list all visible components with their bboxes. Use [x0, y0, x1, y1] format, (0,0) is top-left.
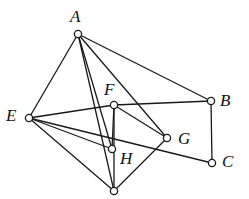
vertex-label-c: C — [222, 153, 233, 170]
graph-edge-f-b — [114, 101, 211, 105]
graph-diagram: ABCEFGH — [0, 0, 249, 199]
vertex-label-b: B — [220, 92, 230, 109]
graph-node-h[interactable] — [108, 145, 115, 152]
graph-edge-a-e — [29, 34, 78, 118]
graph-canvas — [0, 0, 249, 199]
vertex-label-g: G — [178, 130, 190, 147]
graph-node-g[interactable] — [163, 134, 170, 141]
graph-edge-e-h — [29, 118, 112, 149]
graph-node-f[interactable] — [110, 101, 117, 108]
graph-node-a[interactable] — [74, 30, 81, 37]
vertex-label-h: H — [120, 150, 132, 167]
graph-edge-b-c — [211, 101, 212, 163]
graph-edge-a-b — [78, 34, 211, 101]
vertex-label-f: F — [104, 81, 114, 98]
graph-edge-a-g — [78, 34, 167, 138]
graph-node-unlabeled[interactable] — [110, 187, 117, 194]
vertex-label-a: A — [70, 8, 80, 25]
graph-node-b[interactable] — [207, 97, 214, 104]
graph-edge-a-d — [78, 34, 114, 191]
graph-node-e[interactable] — [25, 114, 32, 121]
vertex-label-e: E — [6, 107, 16, 124]
graph-edge-f-g — [114, 105, 167, 138]
graph-node-c[interactable] — [208, 159, 215, 166]
